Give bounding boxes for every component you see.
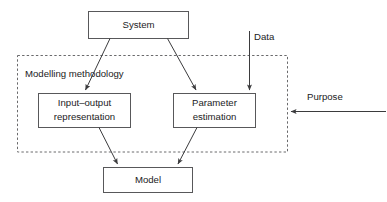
- diagram-canvas: Modelling methodology System Input–outpu…: [0, 0, 387, 202]
- purpose-label: Purpose: [307, 91, 343, 102]
- edge-system-to-input-output: [86, 39, 111, 91]
- edge-system-to-parameter-estimation: [168, 39, 197, 91]
- node-parameter-estimation-label-line2: estimation: [193, 111, 237, 122]
- node-system-label: System: [123, 19, 155, 30]
- node-input-output-label-line2: representation: [54, 111, 115, 122]
- modelling-methodology-label: Modelling methodology: [25, 68, 124, 79]
- node-parameter-estimation-label-line1: Parameter: [192, 97, 238, 108]
- data-label: Data: [254, 31, 275, 42]
- node-model-label: Model: [135, 174, 161, 185]
- edge-parameter-estimation-to-model: [178, 128, 197, 165]
- edge-input-output-to-model: [99, 128, 118, 165]
- node-input-output-label-line1: Input–output: [58, 97, 112, 108]
- flow-diagram: Modelling methodology System Input–outpu…: [0, 0, 387, 202]
